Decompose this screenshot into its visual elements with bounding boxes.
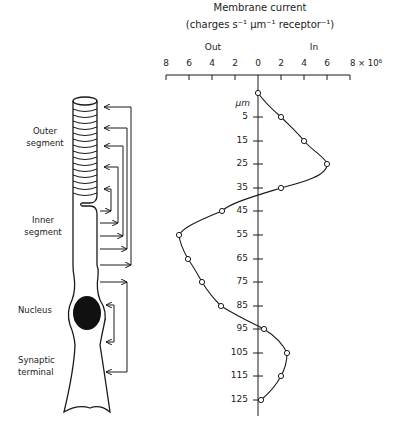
data-points [176,90,329,402]
current-flow-arrows [100,107,131,372]
rod-cell-drawing [64,97,110,412]
outer-segment-discs [73,109,97,196]
chart-axes [166,75,350,416]
outer-segment-top [73,97,97,105]
nucleus [73,296,101,330]
figure-graphics [0,0,406,428]
